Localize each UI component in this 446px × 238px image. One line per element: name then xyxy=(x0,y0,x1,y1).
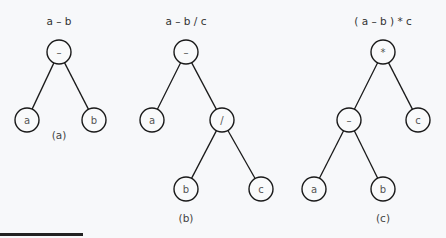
tree-node: b xyxy=(82,108,106,132)
node-label: a xyxy=(24,115,30,126)
tree-node: c xyxy=(406,108,430,132)
subfigure-caption: (c) xyxy=(376,212,390,224)
tree-node: a xyxy=(140,108,164,132)
node-label: b xyxy=(91,115,97,126)
node-label: * xyxy=(381,47,386,58)
node-label: b xyxy=(183,184,189,195)
tree-edge xyxy=(192,63,217,110)
tree-node: b xyxy=(174,177,198,201)
expression-title: ( a – b ) * c xyxy=(354,15,412,27)
tree-node: – xyxy=(47,40,71,64)
node-label: c xyxy=(415,115,421,126)
tree-node: – xyxy=(337,108,361,132)
expression-tree-a: –aba – b(a) xyxy=(15,15,106,141)
expression-title: a – b xyxy=(46,15,71,27)
subfigure-caption: (b) xyxy=(179,212,194,224)
node-label: a xyxy=(149,115,155,126)
node-label: – xyxy=(184,47,189,58)
node-label: – xyxy=(57,47,62,58)
node-label: – xyxy=(347,115,352,126)
tree-node: a xyxy=(15,108,39,132)
subfigure-caption: (a) xyxy=(52,129,67,141)
tree-edge xyxy=(32,63,54,109)
tree-edge xyxy=(388,63,412,110)
tree-node: / xyxy=(210,108,234,132)
tree-edge xyxy=(354,63,377,110)
expression-title: a – b / c xyxy=(165,15,206,27)
tree-edge xyxy=(354,131,377,178)
expression-trees-canvas: –aba – b(a)–a/bca – b / c(b)*–cab( a – b… xyxy=(0,0,446,238)
tree-node: * xyxy=(371,40,395,64)
node-label: c xyxy=(258,184,264,195)
tree-edge xyxy=(157,63,180,110)
tree-node: – xyxy=(174,40,198,64)
expression-tree-c: *–cab( a – b ) * c(c) xyxy=(302,15,430,224)
tree-node: b xyxy=(371,177,395,201)
node-label: a xyxy=(311,184,317,195)
tree-node: c xyxy=(249,177,273,201)
tree-edge xyxy=(64,63,88,110)
expression-tree-b: –a/bca – b / c(b) xyxy=(140,15,273,224)
tree-edge xyxy=(319,131,343,179)
tree-node: a xyxy=(302,177,326,201)
bottom-rule xyxy=(0,233,83,236)
tree-edge xyxy=(192,131,217,179)
tree-edge xyxy=(228,130,255,178)
node-label: b xyxy=(380,184,386,195)
